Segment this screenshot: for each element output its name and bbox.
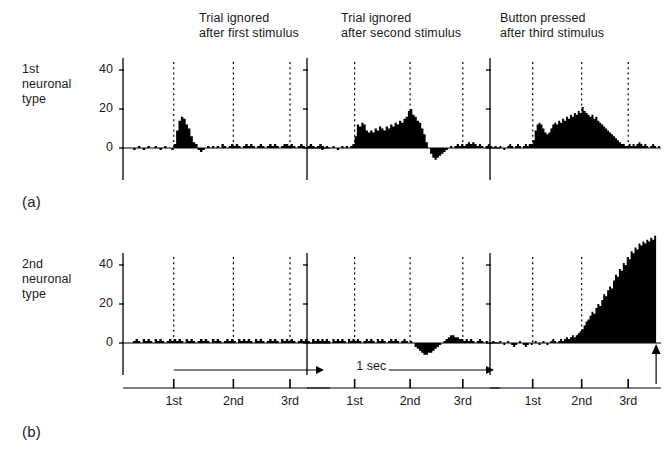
histogram-trace [497, 236, 656, 347]
button-press-arrow-head [652, 344, 661, 354]
y-axis-label-40: 40 [87, 257, 113, 271]
histogram-trace [315, 335, 499, 355]
time-axis-label-3rd: 3rd [275, 394, 305, 408]
y-axis-label-0: 0 [87, 335, 113, 349]
time-axis-label-3rd: 3rd [613, 394, 643, 408]
time-scale-label-1-sec: 1 sec [356, 359, 386, 373]
panel-a-3 [486, 58, 662, 180]
y-axis-label-40: 40 [87, 62, 113, 76]
time-axis-label-2nd: 2nd [218, 394, 248, 408]
histogram-trace [131, 339, 331, 343]
panel-b-3 [486, 236, 661, 388]
time-axis-label-2nd: 2nd [395, 394, 425, 408]
neuronal-response-figure: Trial ignored after first stimulus Trial… [0, 0, 666, 459]
time-axis-label-1st: 1st [518, 394, 548, 408]
panel-a-1 [119, 58, 330, 180]
time-axis-label-1st: 1st [159, 394, 189, 408]
panel-b-1 [119, 253, 331, 388]
y-axis-label-0: 0 [87, 140, 113, 154]
histogram-trace [315, 109, 499, 160]
histogram-trace [497, 107, 662, 150]
time-axis-label-1st: 1st [340, 394, 370, 408]
panel-a-2 [303, 58, 500, 180]
time-axis-label-3rd: 3rd [448, 394, 478, 408]
histogram-trace [131, 117, 329, 152]
panel-b-2 [303, 253, 500, 388]
y-axis-label-20: 20 [87, 101, 113, 115]
y-axis-label-20: 20 [87, 296, 113, 310]
time-axis-label-2nd: 2nd [567, 394, 597, 408]
duration-arrow-head [316, 366, 324, 374]
